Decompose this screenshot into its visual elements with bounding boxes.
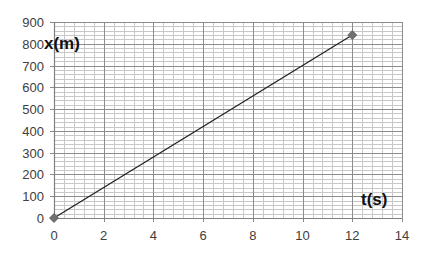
- x-tick-label: 12: [345, 228, 359, 243]
- x-tick-label: 6: [200, 228, 207, 243]
- minor-grid: [54, 22, 403, 219]
- x-tick-label: 10: [295, 228, 309, 243]
- x-tick-label: 4: [150, 228, 157, 243]
- y-tick-label: 500: [22, 102, 44, 117]
- x-tick-labels: 02468101214: [50, 228, 409, 243]
- y-tick-labels: 0100200300400500600700800900: [22, 15, 44, 226]
- y-tick-label: 100: [22, 189, 44, 204]
- y-tick-label: 200: [22, 167, 44, 182]
- x-tick-label: 8: [249, 228, 256, 243]
- x-tick-label: 2: [100, 228, 107, 243]
- axes: [54, 22, 402, 219]
- x-axis-title: t(s): [361, 190, 387, 209]
- y-tick-label: 0: [37, 211, 44, 226]
- y-tick-label: 800: [22, 37, 44, 52]
- y-tick-label: 400: [22, 124, 44, 139]
- y-tick-label: 300: [22, 146, 44, 161]
- y-tick-label: 900: [22, 15, 44, 30]
- x-tick-label: 0: [50, 228, 57, 243]
- x-tick-label: 14: [395, 228, 409, 243]
- y-tick-label: 700: [22, 59, 44, 74]
- y-axis-title: x(m): [44, 34, 80, 53]
- position-time-chart: 02468101214 0100200300400500600700800900…: [0, 0, 428, 254]
- y-tick-label: 600: [22, 80, 44, 95]
